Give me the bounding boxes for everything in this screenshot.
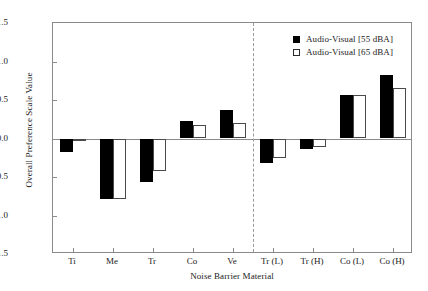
legend-item: Audio-Visual [55 dBA] bbox=[293, 33, 393, 46]
bar bbox=[313, 139, 326, 147]
y-tick-label: 0.5 bbox=[0, 95, 8, 104]
x-tick-label: Co (H) bbox=[379, 257, 404, 266]
bar bbox=[153, 139, 166, 171]
bar bbox=[60, 139, 73, 153]
bar bbox=[233, 123, 246, 138]
y-tick-label: −1.5 bbox=[0, 249, 8, 258]
legend-label: Audio-Visual [55 dBA] bbox=[306, 35, 393, 44]
x-tick-label: Me bbox=[106, 257, 118, 266]
bar bbox=[273, 139, 286, 158]
bar bbox=[260, 139, 273, 164]
bar bbox=[380, 75, 393, 138]
y-tick-mark bbox=[53, 177, 57, 178]
y-tick-label: 1.0 bbox=[0, 56, 8, 65]
y-tick-mark bbox=[53, 216, 57, 217]
legend-swatch-open-icon bbox=[293, 49, 300, 56]
x-tick-mark bbox=[193, 248, 194, 252]
y-tick-label: −0.5 bbox=[0, 172, 8, 181]
y-tick-mark bbox=[53, 100, 57, 101]
y-tick-mark bbox=[53, 62, 57, 63]
x-tick-mark bbox=[153, 248, 154, 252]
x-tick-label: Tr (L) bbox=[261, 257, 283, 266]
x-tick-mark bbox=[313, 248, 314, 252]
x-axis-title: Noise Barrier Material bbox=[52, 271, 412, 281]
x-tick-label: Co (L) bbox=[340, 257, 364, 266]
x-tick-mark bbox=[273, 248, 274, 252]
bar bbox=[180, 121, 193, 139]
x-tick-mark bbox=[353, 248, 354, 252]
bar-chart-figure: Overall Preference Scale Value Noise Bar… bbox=[0, 0, 428, 291]
x-tick-label: Ve bbox=[227, 257, 237, 266]
bar bbox=[393, 88, 406, 138]
bar bbox=[73, 139, 86, 141]
legend-label: Audio-Visual [65 dBA] bbox=[306, 48, 393, 57]
y-tick-mark bbox=[53, 139, 57, 140]
group-divider-line bbox=[253, 23, 254, 252]
bar bbox=[100, 139, 113, 200]
x-tick-label: Co bbox=[187, 257, 198, 266]
bar bbox=[113, 139, 126, 199]
legend-swatch-filled-icon bbox=[293, 36, 300, 43]
legend-item: Audio-Visual [65 dBA] bbox=[293, 46, 393, 59]
x-tick-mark bbox=[73, 248, 74, 252]
y-tick-label: 1.5 bbox=[0, 18, 8, 27]
y-tick-label: 0.0 bbox=[0, 133, 8, 142]
bar bbox=[340, 95, 353, 138]
bar bbox=[353, 95, 366, 138]
x-tick-mark bbox=[113, 248, 114, 252]
x-tick-mark bbox=[233, 248, 234, 252]
x-tick-label: Tr (H) bbox=[301, 257, 324, 266]
bar bbox=[300, 139, 313, 149]
bar bbox=[140, 139, 153, 183]
plot-area: Audio-Visual [55 dBA]Audio-Visual [65 dB… bbox=[52, 22, 412, 253]
y-axis-title: Overall Preference Scale Value bbox=[24, 30, 34, 230]
x-tick-label: Tr bbox=[148, 257, 156, 266]
bar bbox=[193, 125, 206, 139]
legend: Audio-Visual [55 dBA]Audio-Visual [65 dB… bbox=[289, 31, 397, 61]
y-tick-label: −1.0 bbox=[0, 210, 8, 219]
bar bbox=[220, 110, 233, 138]
x-tick-mark bbox=[393, 248, 394, 252]
x-tick-label: Ti bbox=[68, 257, 76, 266]
